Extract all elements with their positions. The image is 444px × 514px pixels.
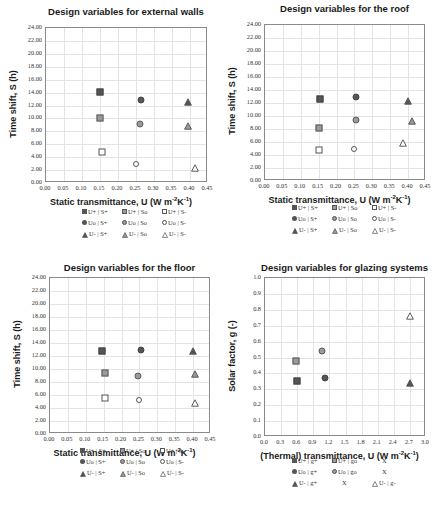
gridline: [50, 343, 209, 344]
legend-triangle-open-icon: [162, 232, 168, 238]
x-tick-label: 0.45: [196, 184, 218, 191]
legend-square-mid-icon: [332, 458, 337, 463]
legend-triangle-open-icon: [372, 481, 378, 487]
legend-label: U- | S+: [89, 230, 107, 237]
gridline: [265, 90, 424, 91]
legend-square-mid-icon: [120, 448, 125, 453]
legend-label: Uo | go: [338, 468, 357, 475]
legend-item: U+ | So: [332, 204, 357, 211]
legend-item: U- | S-: [162, 230, 186, 238]
legend-item: Uo | go: [332, 468, 357, 475]
legend-item: Uo | S-: [372, 215, 396, 222]
gridline: [193, 278, 194, 432]
plot-area: [49, 277, 210, 433]
legend-item: Uo | S+: [292, 215, 317, 222]
legend-label: Uo | S-: [378, 215, 396, 222]
legend-label: U+ | So: [338, 204, 357, 211]
data-point-triangle-mid: [191, 370, 199, 378]
legend-item: U+ | S+: [80, 447, 106, 454]
data-point-triangle-open: [399, 139, 407, 147]
gridline: [354, 25, 355, 179]
legend-label: X: [382, 457, 387, 464]
chart-glazing-systems: Design variables for glazing systems0.00…: [222, 257, 444, 514]
gridline: [46, 41, 206, 42]
legend-item: U- | S+: [292, 226, 317, 234]
y-tick-label: 4.00: [18, 403, 46, 410]
data-point-square-mid: [102, 369, 109, 376]
y-tick-label: 14.00: [233, 85, 261, 92]
data-point-square-open: [315, 146, 322, 153]
y-tick-label: 16.00: [233, 72, 261, 79]
gridline: [362, 278, 363, 435]
y-tick-label: 18.00: [14, 62, 42, 69]
y-tick-label: 6.00: [18, 390, 46, 397]
legend-item: Uo | S-: [160, 458, 184, 465]
gridline: [46, 144, 206, 145]
legend-label: U- | g-: [379, 479, 396, 486]
legend-item: X: [342, 479, 347, 486]
y-tick-label: 12.00: [18, 351, 46, 358]
legend-triangle-filled-icon: [82, 232, 88, 238]
gridline: [265, 129, 424, 130]
gridline: [46, 157, 206, 158]
chart-title: Design variables for glazing systems: [244, 262, 444, 273]
y-tick-label: 12.00: [14, 101, 42, 108]
legend-square-filled-icon: [82, 209, 87, 214]
legend-square-filled-icon: [80, 448, 85, 453]
gridline: [50, 421, 209, 422]
plot-area: [45, 27, 207, 182]
data-point-circle-filled: [322, 375, 329, 382]
gridline: [265, 103, 424, 104]
gridline: [283, 25, 284, 179]
legend-item: Uo | So: [332, 215, 357, 222]
data-point-circle-open: [351, 146, 357, 152]
gridline: [394, 278, 395, 435]
y-axis-label: Solar factor, g (-): [227, 296, 237, 416]
gridline: [329, 278, 330, 435]
y-tick-label: 0.9: [233, 289, 261, 296]
legend-circle-mid-icon: [120, 459, 125, 464]
gridline: [86, 278, 87, 432]
gridline: [265, 358, 424, 359]
legend-item: Uo | S-: [162, 219, 186, 226]
data-point-square-filled: [98, 347, 105, 354]
legend-label: Uo | So: [128, 219, 147, 226]
y-tick-label: 6.00: [233, 137, 261, 144]
gridline: [378, 278, 379, 435]
y-tick-label: 0.7: [233, 321, 261, 328]
y-axis-label: Time shift, S (h): [12, 294, 22, 414]
data-point-circle-open: [133, 161, 139, 167]
gridline: [50, 317, 209, 318]
legend-label: X: [342, 479, 347, 486]
chart-title: Design variables for the roof: [244, 3, 444, 14]
y-tick-label: 18.00: [233, 59, 261, 66]
gridline: [50, 369, 209, 370]
legend-label: U- | So: [129, 230, 147, 237]
legend-square-open-icon: [162, 209, 167, 214]
legend-item: U+ | S-: [162, 208, 186, 215]
legend-triangle-open-icon: [160, 471, 166, 477]
legend-triangle-open-icon: [372, 228, 378, 234]
gridline: [46, 170, 206, 171]
y-tick-label: 10.00: [233, 111, 261, 118]
legend-label: U+ | S+: [86, 447, 106, 454]
legend-circle-filled-icon: [292, 216, 297, 221]
legend-label: U+ | S-: [166, 447, 184, 454]
data-point-triangle-mid: [184, 122, 192, 130]
gridline: [64, 28, 65, 181]
y-tick-label: 10.00: [18, 364, 46, 371]
gridline: [265, 116, 424, 117]
legend-label: U+ | S+: [88, 208, 108, 215]
legend-triangle-mid-icon: [332, 228, 338, 234]
legend-circle-filled-icon: [292, 469, 297, 474]
legend-item: U- | So: [122, 230, 147, 238]
legend-label: Uo | S+: [86, 458, 105, 465]
data-point-square-open: [102, 394, 109, 401]
legend-circle-mid-icon: [332, 469, 337, 474]
legend-item: U- | S-: [372, 226, 396, 234]
legend-circle-mid-icon: [332, 216, 337, 221]
legend-item: Uo | g+: [292, 468, 317, 475]
y-axis-label: Time shift, S (h): [8, 44, 18, 164]
legend-label: X: [382, 468, 387, 475]
gridline: [50, 382, 209, 383]
